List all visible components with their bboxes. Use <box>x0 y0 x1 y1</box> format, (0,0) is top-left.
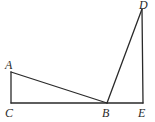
label-d: D <box>138 0 148 12</box>
segment-bd <box>107 9 142 103</box>
geometry-diagram: A C B E D <box>0 0 155 122</box>
label-a: A <box>4 58 13 72</box>
label-e: E <box>137 106 146 120</box>
segment-de <box>142 9 143 103</box>
label-b: B <box>102 106 110 120</box>
label-c: C <box>5 106 14 120</box>
segment-ab <box>11 72 107 103</box>
